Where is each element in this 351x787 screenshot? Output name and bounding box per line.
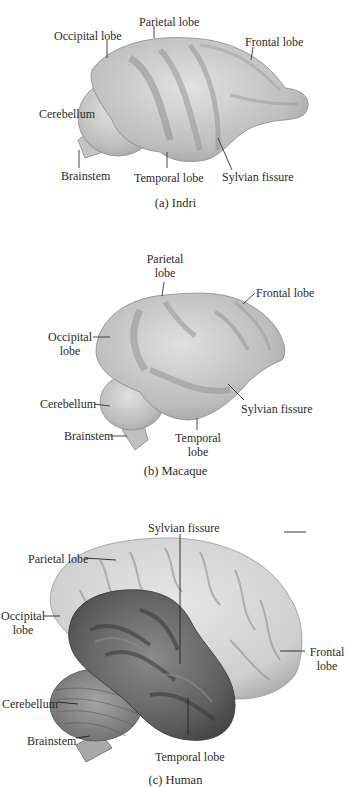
label-frontal-lobe: Frontal lobe <box>256 286 314 300</box>
label-temporal-lobe: Temporal lobe <box>134 171 203 185</box>
label-frontal-lobe: Frontal lobe <box>245 35 303 49</box>
figure-human: Sylvian fissure Parietal lobe Occipital … <box>0 480 351 787</box>
label-cerebellum: Cerebellum <box>39 107 95 121</box>
label-frontal-lobe: Frontal lobe <box>305 645 349 673</box>
label-parietal-lobe: Parietal lobe <box>145 252 185 280</box>
label-temporal-lobe: Temporal lobe <box>155 750 224 764</box>
label-sylvian-fissure: Sylvian fissure <box>241 402 313 416</box>
label-occipital-lobe: Occipital lobe <box>54 29 122 43</box>
label-occipital-lobe: Occipital lobe <box>47 330 93 358</box>
caption-macaque: (b) Macaque <box>0 464 351 479</box>
label-brainstem: Brainstem <box>27 734 76 748</box>
label-cerebellum: Cerebellum <box>40 397 96 411</box>
label-sylvian-fissure: Sylvian fissure <box>148 521 220 535</box>
label-occipital-lobe: Occipital lobe <box>0 609 46 637</box>
caption-human: (c) Human <box>0 773 351 787</box>
label-sylvian-fissure: Sylvian fissure <box>222 170 294 184</box>
label-brainstem: Brainstem <box>64 429 113 443</box>
figure-macaque: Parietal lobe Frontal lobe Occipital lob… <box>0 240 351 480</box>
figure-indri: Occipital lobe Parietal lobe Frontal lob… <box>0 0 351 240</box>
caption-indri: (a) Indri <box>0 196 351 211</box>
label-temporal-lobe: Temporal lobe <box>175 431 221 459</box>
label-brainstem: Brainstem <box>61 169 110 183</box>
label-parietal-lobe: Parietal lobe <box>28 552 88 566</box>
label-cerebellum: Cerebellum <box>2 697 58 711</box>
label-parietal-lobe: Parietal lobe <box>139 15 199 29</box>
